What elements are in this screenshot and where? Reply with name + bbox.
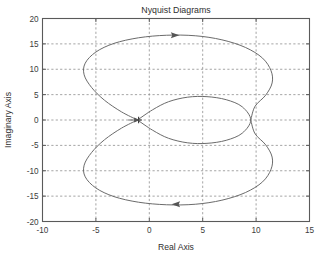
x-tick-label-5: 5	[200, 226, 205, 235]
figure-background	[0, 0, 325, 262]
x-tick-label-0: 0	[147, 226, 152, 235]
x-tick-label--5: -5	[92, 226, 100, 235]
y-axis-label: Imaginary Axis	[3, 92, 13, 148]
nyquist-figure: Nyquist Diagrams -10-5051015 20151050-5-…	[0, 0, 325, 262]
y-tick-label--15: -15	[27, 192, 39, 201]
y-tick-label-5: 5	[34, 91, 39, 100]
y-tick-label-0: 0	[34, 116, 39, 125]
x-tick-label--10: -10	[37, 226, 49, 235]
x-tick-label-10: 10	[252, 226, 262, 235]
y-tick-label-10: 10	[29, 65, 39, 74]
y-tick-label--20: -20	[27, 218, 39, 227]
x-tick-label-15: 15	[305, 226, 315, 235]
x-axis-label: Real Axis	[158, 242, 194, 252]
y-tick-label-20: 20	[29, 15, 39, 24]
y-tick-label-15: 15	[29, 40, 39, 49]
y-tick-label--10: -10	[27, 167, 39, 176]
y-tick-label--5: -5	[31, 141, 39, 150]
nyquist-plot-svg: Nyquist Diagrams -10-5051015 20151050-5-…	[0, 0, 325, 262]
chart-title: Nyquist Diagrams	[141, 5, 211, 15]
